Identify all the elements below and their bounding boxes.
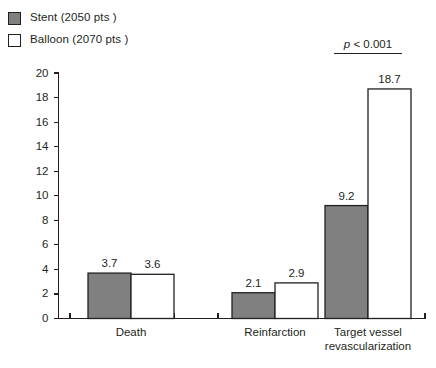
- plot-area: 02468101214161820 3.73.62.12.99.218.7 De…: [0, 0, 436, 368]
- y-axis-tick-label: 12: [36, 165, 49, 177]
- y-axis-tick-label: 8: [42, 214, 48, 226]
- bar-balloon-2: [368, 89, 411, 319]
- bar-stent-0: [88, 273, 131, 318]
- bar-value-label-stent-2: 9.2: [339, 190, 355, 202]
- bar-balloon-0: [131, 274, 174, 318]
- category-label-0: Death: [116, 326, 147, 338]
- y-axis-tick-label: 20: [36, 67, 49, 79]
- bar-value-label-stent-0: 3.7: [102, 257, 118, 269]
- category-labels: DeathReinfarctionTarget vesselrevascular…: [116, 326, 411, 352]
- y-axis-tick-label: 2: [42, 287, 48, 299]
- y-axis-tick-labels: 02468101214161820: [36, 67, 49, 325]
- p-value-text: p < 0.001: [343, 38, 392, 50]
- bar-balloon-1: [275, 283, 318, 319]
- bar-value-label-balloon-1: 2.9: [289, 267, 305, 279]
- y-axis-tick-label: 18: [36, 91, 49, 103]
- bar-value-label-balloon-0: 3.6: [145, 258, 161, 270]
- category-label-2: Target vessel: [334, 326, 402, 338]
- y-axis-tick-label: 14: [36, 140, 49, 152]
- category-label-2: revascularization: [325, 340, 411, 352]
- y-axis-tick-label: 4: [42, 263, 49, 275]
- bar-value-label-stent-1: 2.1: [246, 277, 262, 289]
- y-axis-tick-label: 10: [36, 189, 49, 201]
- y-axis-tick-label: 6: [42, 238, 48, 250]
- bar-stent-2: [325, 206, 368, 319]
- bar-value-label-balloon-2: 18.7: [378, 73, 400, 85]
- category-label-1: Reinfarction: [244, 326, 305, 338]
- bar-chart-figure: Stent (2050 pts ) Balloon (2070 pts ) 02…: [0, 0, 436, 368]
- p-value-annotation: p < 0.001: [334, 38, 402, 54]
- y-axis-tick-label: 16: [36, 116, 49, 128]
- bar-stent-1: [232, 293, 275, 319]
- y-axis-ticks: [54, 73, 59, 319]
- y-axis-tick-label: 0: [42, 312, 48, 324]
